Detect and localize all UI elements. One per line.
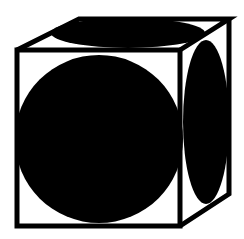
- right-face-ellipse: [183, 40, 229, 204]
- cube-diagram: [0, 0, 244, 239]
- front-face-circle: [15, 55, 183, 223]
